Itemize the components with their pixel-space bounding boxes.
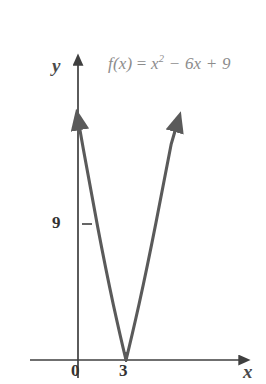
figure-canvas: f(x) = x2 − 6x + 9 y x 9 0 3 xyxy=(0,0,266,384)
function-formula-annotation: f(x) = x2 − 6x + 9 xyxy=(108,55,231,72)
formula-term1-base: x xyxy=(151,54,159,73)
parabola-right-branch xyxy=(126,129,176,360)
parabola-left-branch xyxy=(79,127,126,360)
x-tick-label-0: 0 xyxy=(71,362,80,379)
x-axis-label: x xyxy=(243,362,253,381)
formula-term2: − 6x xyxy=(169,54,202,73)
formula-equals: = xyxy=(137,54,147,73)
y-tick-label-9: 9 xyxy=(52,214,61,231)
formula-term1-exponent: 2 xyxy=(159,53,164,64)
x-tick-label-3: 3 xyxy=(119,362,128,379)
y-axis-label: y xyxy=(52,56,60,75)
formula-term3: + 9 xyxy=(206,54,231,73)
formula-arg: (x) xyxy=(113,54,132,73)
